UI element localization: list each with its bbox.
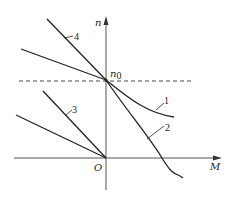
curve-1-left-segment (21, 49, 106, 80)
origin-label: O (94, 162, 102, 173)
curve-3 (43, 91, 106, 158)
curve-1-leader (156, 103, 164, 110)
curve-2 (106, 80, 183, 178)
m-axis-label: M (209, 161, 221, 172)
curve-2-leader (147, 126, 164, 139)
n0-point (105, 79, 108, 82)
curve-4-leader (64, 36, 73, 38)
curve-2-label: 2 (165, 122, 170, 133)
curve-4-label: 4 (74, 31, 79, 42)
curve-3-shallow (16, 115, 106, 158)
n-axis-arrow-icon (104, 16, 109, 25)
n-axis-label: n (95, 17, 101, 28)
curve-3-label: 3 (72, 104, 77, 115)
curve-1-label: 1 (164, 95, 169, 106)
n0-label: n0 (110, 68, 121, 81)
curve-4 (47, 19, 106, 80)
m-axis-arrow-icon (213, 156, 222, 161)
characteristic-diagram: n M O n0 4 1 2 3 (0, 0, 235, 198)
